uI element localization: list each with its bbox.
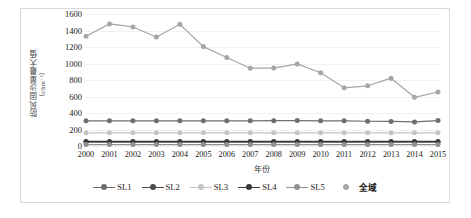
- data-point: [295, 142, 300, 147]
- x-axis-tick-label: 2005: [195, 150, 211, 159]
- data-point: [271, 142, 276, 147]
- data-point: [271, 118, 276, 123]
- y-axis-tick-label: 400: [69, 108, 82, 118]
- data-point: [224, 130, 229, 135]
- legend-label: 全域: [359, 181, 377, 193]
- plot-area: [86, 14, 438, 146]
- data-point: [365, 130, 370, 135]
- legend-item-SL3[interactable]: SL3: [190, 182, 228, 192]
- data-point: [389, 130, 394, 135]
- x-axis-tick-label: 2015: [430, 150, 446, 159]
- x-axis-tick-label: 2009: [289, 150, 305, 159]
- legend-label: SL5: [310, 182, 324, 192]
- data-point: [130, 142, 135, 147]
- data-point: [177, 118, 182, 123]
- x-axis-tick-label: 2013: [383, 150, 399, 159]
- y-axis-tick-label: 200: [69, 125, 82, 135]
- legend-dot: [294, 184, 300, 190]
- data-point: [436, 142, 441, 147]
- legend-dot: [343, 184, 349, 190]
- y-axis-tick-label: 1600: [65, 9, 82, 19]
- data-point: [412, 119, 417, 124]
- data-point: [436, 118, 441, 123]
- data-point: [389, 119, 394, 124]
- legend-dot: [150, 184, 156, 190]
- x-axis-tick-label: 2003: [148, 150, 164, 159]
- data-point: [84, 130, 89, 135]
- data-point: [389, 142, 394, 147]
- data-point: [436, 130, 441, 135]
- x-axis-title: 年份: [86, 163, 438, 174]
- data-point: [412, 142, 417, 147]
- x-axis-tick-labels: 2000200120022003200420052006200720082009…: [86, 150, 438, 164]
- legend-marker-icon: [93, 183, 115, 192]
- legend-item-SL4[interactable]: SL4: [238, 182, 276, 192]
- data-point: [342, 85, 347, 90]
- x-axis-tick-label: 2008: [266, 150, 282, 159]
- legend-marker-icon: [190, 183, 212, 192]
- data-point: [248, 66, 253, 71]
- data-point: [201, 44, 206, 49]
- legend-item-SL5[interactable]: SL5: [286, 182, 324, 192]
- data-point: [84, 142, 89, 147]
- data-point: [84, 34, 89, 39]
- x-axis-tick-label: 2006: [219, 150, 235, 159]
- data-point: [318, 118, 323, 123]
- data-point: [201, 118, 206, 123]
- legend-label: SL2: [166, 182, 180, 192]
- series-line: [86, 24, 438, 97]
- data-point: [201, 142, 206, 147]
- data-point: [201, 130, 206, 135]
- data-point: [436, 89, 441, 94]
- legend-item-SL1[interactable]: SL1: [93, 182, 131, 192]
- data-point: [177, 22, 182, 27]
- series-line: [86, 121, 438, 122]
- data-point: [318, 70, 323, 75]
- data-point: [107, 130, 112, 135]
- legend-dot: [198, 184, 204, 190]
- legend-item-全域[interactable]: 全域: [335, 181, 377, 193]
- data-point: [107, 142, 112, 147]
- data-point: [271, 130, 276, 135]
- chart-legend: SL1SL2SL3SL4SL5全域: [20, 179, 450, 195]
- y-axis-tick-label: 1000: [65, 59, 82, 69]
- legend-marker-icon: [238, 183, 260, 192]
- data-point: [154, 130, 159, 135]
- y-axis-unit-text: （t/hm⁻²）: [38, 68, 48, 101]
- data-point: [154, 118, 159, 123]
- data-point: [412, 95, 417, 100]
- data-point: [389, 76, 394, 81]
- data-point: [177, 142, 182, 147]
- data-point: [107, 118, 112, 123]
- x-axis-tick-label: 2007: [242, 150, 258, 159]
- legend-dot: [246, 184, 252, 190]
- legend-marker-icon: [286, 183, 308, 192]
- x-axis-tick-label: 2001: [101, 150, 117, 159]
- data-point: [130, 24, 135, 29]
- y-axis-tick-label: 800: [69, 75, 82, 85]
- series-全域: [84, 21, 441, 99]
- x-axis-tick-label: 2010: [312, 150, 328, 159]
- legend-label: SL4: [262, 182, 276, 192]
- data-point: [318, 130, 323, 135]
- legend-item-SL2[interactable]: SL2: [142, 182, 180, 192]
- x-axis-tick-label: 2012: [359, 150, 375, 159]
- legend-dot: [101, 184, 107, 190]
- series-canvas: [86, 14, 438, 146]
- data-point: [224, 118, 229, 123]
- y-axis-tick-label: 600: [69, 92, 82, 102]
- y-axis-tick-label: 1200: [65, 42, 82, 52]
- x-axis-tick-label: 2004: [172, 150, 188, 159]
- data-point: [130, 130, 135, 135]
- data-point: [107, 21, 112, 26]
- x-axis-tick-label: 2014: [406, 150, 422, 159]
- data-point: [154, 34, 159, 39]
- legend-marker-icon: [335, 183, 357, 192]
- data-point: [224, 55, 229, 60]
- data-point: [412, 130, 417, 135]
- data-point: [248, 130, 253, 135]
- chart-figure: 防风固沙量最大值 （t/hm⁻²） 0200400600800100012001…: [0, 0, 471, 218]
- y-axis-title: 防风固沙量最大值 （t/hm⁻²）: [26, 18, 52, 150]
- data-point: [295, 61, 300, 66]
- data-point: [177, 130, 182, 135]
